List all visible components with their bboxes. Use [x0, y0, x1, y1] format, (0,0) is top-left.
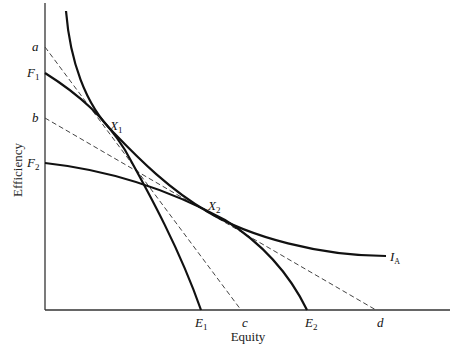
- label-f1: F1: [27, 66, 39, 82]
- label-f2-base: F: [27, 155, 35, 170]
- label-x1: X1: [110, 119, 122, 135]
- label-e2-base: E: [305, 315, 313, 330]
- label-d-text: d: [377, 315, 384, 330]
- label-e2: E2: [305, 316, 317, 332]
- label-d: d: [377, 316, 384, 329]
- tangent-line-ac: [45, 47, 241, 310]
- label-x2-base: X: [208, 198, 216, 213]
- label-f2: F2: [27, 156, 39, 172]
- label-b-text: b: [32, 110, 39, 125]
- label-ia-sub: A: [394, 257, 400, 266]
- label-f1-sub: 1: [35, 72, 40, 82]
- label-c: c: [242, 316, 248, 329]
- label-a-text: a: [32, 39, 39, 54]
- label-f1-base: F: [27, 65, 35, 80]
- x-axis-title: Equity: [231, 330, 266, 343]
- diagram-canvas: [0, 0, 458, 350]
- frontier-f2-e2: [45, 163, 307, 310]
- efficiency-equity-diagram: a F1 b F2 X1 X2 IA E1 c E2 d Efficiency …: [0, 0, 458, 350]
- label-x2: X2: [208, 199, 220, 215]
- label-x1-sub: 1: [118, 125, 123, 135]
- label-x1-base: X: [110, 118, 118, 133]
- label-x2-sub: 2: [216, 205, 221, 215]
- label-e1: E1: [195, 316, 207, 332]
- label-a: a: [32, 40, 39, 53]
- y-axis-title: Efficiency: [11, 143, 24, 197]
- label-e1-sub: 1: [203, 322, 208, 332]
- label-ia: IA: [390, 250, 400, 266]
- label-e1-base: E: [195, 315, 203, 330]
- label-f2-sub: 2: [35, 162, 40, 172]
- label-e2-sub: 2: [313, 322, 318, 332]
- label-b: b: [32, 111, 39, 124]
